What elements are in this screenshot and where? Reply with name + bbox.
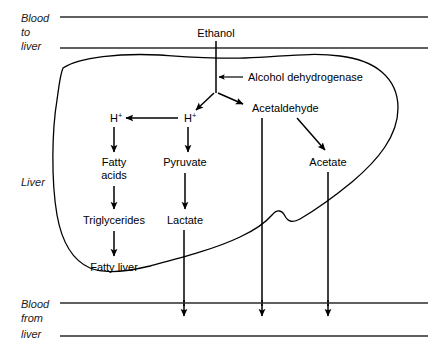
- ethanol-group: Ethanol: [197, 27, 234, 93]
- pyruvate-label: Pyruvate: [163, 156, 206, 168]
- hplus-right-superscript: +: [192, 111, 197, 120]
- acetate-group: Acetate: [309, 156, 346, 316]
- hplus-left-group: H+: [110, 111, 178, 152]
- triglycerides-group: Triglycerides: [83, 214, 145, 256]
- hplus-right-label: H+: [184, 111, 197, 124]
- branch-to-acetaldehyde-arrow: [218, 93, 243, 104]
- blood-to-liver-label-line1: Blood: [21, 12, 50, 24]
- ethanol-label: Ethanol: [197, 27, 234, 39]
- hplus-left-text: H: [110, 112, 118, 124]
- fatty-acids-label-line1: Fatty: [102, 156, 127, 168]
- figure-caption: [26, 344, 436, 354]
- lactate-label: Lactate: [167, 214, 203, 226]
- hplus-right-group: H+: [184, 111, 197, 152]
- fatty-acids-group: Fatty acids: [101, 156, 127, 209]
- hplus-left-superscript: +: [118, 111, 123, 120]
- branch-to-hplus-arrow: [196, 93, 214, 110]
- blood-from-liver-zone: Blood from liver: [21, 298, 428, 340]
- liver-zone-label: Liver: [21, 176, 46, 188]
- blood-from-liver-label-line3: liver: [21, 328, 43, 340]
- acetate-label: Acetate: [309, 156, 346, 168]
- fatty-acids-label-line2: acids: [101, 169, 127, 181]
- figure-root: Blood to liver Liver Ethanol Alcohol deh…: [0, 0, 439, 354]
- blood-from-liver-label-line1: Blood: [21, 298, 50, 310]
- blood-to-liver-label-line2: to: [21, 26, 30, 38]
- acetaldehyde-label: Acetaldehyde: [252, 102, 319, 114]
- alcohol-dehydrogenase-label: Alcohol dehydrogenase: [248, 71, 363, 83]
- lactate-group: Lactate: [167, 214, 203, 316]
- ethanol-branch-fork: [196, 93, 243, 110]
- pyruvate-group: Pyruvate: [163, 156, 206, 209]
- acetaldehyde-to-acetate-arrow: [297, 118, 325, 150]
- alcohol-dehydrogenase-group: Alcohol dehydrogenase: [219, 71, 363, 83]
- hplus-right-text: H: [184, 112, 192, 124]
- hplus-left-label: H+: [110, 111, 123, 124]
- acetaldehyde-group: Acetaldehyde: [252, 102, 325, 316]
- blood-to-liver-label-line3: liver: [21, 40, 43, 52]
- ethanol-metabolism-diagram: Blood to liver Liver Ethanol Alcohol deh…: [0, 0, 439, 354]
- blood-from-liver-label-line2: from: [21, 312, 43, 324]
- fatty-liver-label: Fatty liver: [90, 261, 138, 273]
- fatty-liver-group: Fatty liver: [90, 261, 138, 273]
- triglycerides-label: Triglycerides: [83, 214, 145, 226]
